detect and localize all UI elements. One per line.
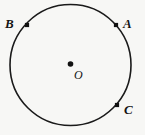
point-label-a: A: [123, 17, 132, 30]
point-label-b: B: [5, 17, 14, 30]
circle-geometry-figure: B A C O: [0, 0, 145, 135]
center-label-o: O: [74, 69, 83, 81]
point-label-c: C: [124, 103, 133, 116]
point-marker-b: [25, 23, 29, 27]
point-marker-c: [115, 103, 119, 107]
center-point-marker: [68, 61, 74, 67]
point-marker-a: [114, 23, 118, 27]
